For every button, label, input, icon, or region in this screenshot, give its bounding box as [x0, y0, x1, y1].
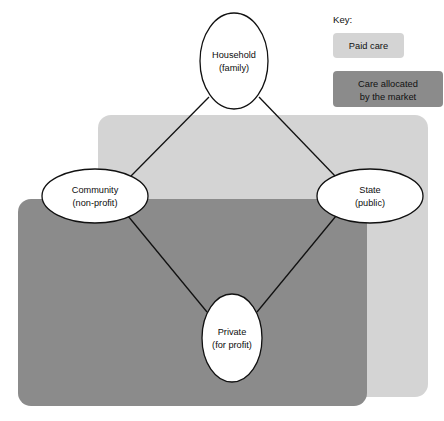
- key-item-market-care[interactable]: Care allocated by the market: [333, 71, 443, 107]
- community-label-line1: Community: [72, 185, 119, 195]
- private-label-line2: (for profit): [212, 340, 252, 350]
- community-ellipse[interactable]: [42, 169, 148, 223]
- diagram-canvas: Household (family) Community (non-profit…: [0, 0, 444, 421]
- household-ellipse[interactable]: [200, 13, 268, 109]
- key-legend: Key: Paid care Care allocated by the mar…: [333, 14, 443, 107]
- community-label-line2: (non-profit): [73, 198, 118, 208]
- key-label-market-care-line1: Care allocated: [358, 79, 418, 89]
- state-label-line2: (public): [355, 198, 385, 208]
- market-care-region: [18, 199, 367, 406]
- key-label-paid-care-line1: Paid care: [349, 41, 388, 51]
- node-state[interactable]: State (public): [317, 169, 423, 223]
- key-title: Key:: [333, 14, 352, 25]
- private-label-line1: Private: [218, 327, 247, 337]
- node-household[interactable]: Household (family): [200, 13, 268, 109]
- state-ellipse[interactable]: [317, 169, 423, 223]
- key-item-paid-care[interactable]: Paid care: [333, 33, 404, 58]
- key-label-market-care-line2: by the market: [360, 92, 417, 102]
- node-private[interactable]: Private (for profit): [202, 294, 262, 382]
- private-ellipse[interactable]: [202, 294, 262, 382]
- household-label-line2: (family): [219, 63, 249, 73]
- node-community[interactable]: Community (non-profit): [42, 169, 148, 223]
- care-diamond-diagram: Household (family) Community (non-profit…: [0, 0, 444, 421]
- state-label-line1: State: [359, 185, 380, 195]
- household-label-line1: Household: [212, 50, 256, 60]
